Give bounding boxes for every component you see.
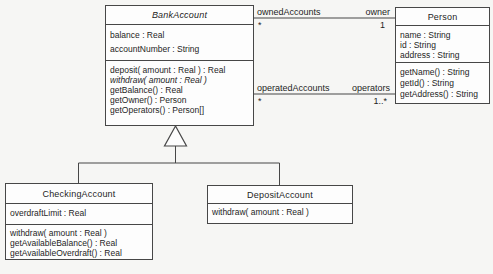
association-role-ownedaccounts: ownedAccounts — [257, 7, 321, 17]
class-bankaccount-attributes: balance : Real accountNumber : String — [106, 25, 253, 61]
association-mult-operators: 1..* — [355, 96, 387, 106]
class-person: Person name : String id : String address… — [395, 7, 490, 104]
association-role-operators: operators — [330, 83, 390, 93]
class-bankaccount: BankAccount balance : Real accountNumber… — [105, 5, 254, 126]
operation: withdraw( amount : Real ) — [10, 228, 148, 238]
class-checkingaccount-operations: withdraw( amount : Real ) getAvailableBa… — [6, 225, 152, 259]
operation: getAddress() : String — [400, 89, 485, 100]
attribute: overdraftLimit : Real — [10, 207, 148, 220]
class-depositaccount: DepositAccount withdraw( amount : Real ) — [207, 185, 353, 224]
class-depositaccount-operations: withdraw( amount : Real ) — [208, 204, 352, 223]
class-checkingaccount: CheckingAccount overdraftLimit : Real wi… — [5, 183, 153, 260]
operation: getAvailableBalance() : Real — [10, 238, 148, 248]
class-bankaccount-operations: deposit( amount : Real ) : Real withdraw… — [106, 61, 253, 125]
association-mult-owner: 1 — [360, 20, 385, 30]
operation: deposit( amount : Real ) : Real — [110, 65, 249, 75]
operation: getOwner() : Person — [110, 95, 249, 105]
attribute: address : String — [400, 50, 485, 60]
class-checkingaccount-attributes: overdraftLimit : Real — [6, 204, 152, 225]
association-role-operatedaccounts: operatedAccounts — [257, 83, 330, 93]
operation: getAvailableOverdraft() : Real — [10, 248, 148, 258]
attribute: id : String — [400, 40, 485, 50]
operation: getOperators() : Person[] — [110, 105, 249, 115]
class-checkingaccount-name: CheckingAccount — [6, 184, 152, 204]
association-role-owner: owner — [330, 7, 390, 17]
operation: getBalance() : Real — [110, 85, 249, 95]
class-person-attributes: name : String id : String address : Stri… — [396, 26, 489, 63]
operation: withdraw( amount : Real ) — [212, 206, 348, 219]
class-person-name: Person — [396, 8, 489, 26]
attribute: name : String — [400, 30, 485, 40]
association-mult-ownedaccounts: * — [258, 20, 262, 30]
operation: getId() : String — [400, 78, 485, 89]
operation: getName() : String — [400, 67, 485, 78]
class-depositaccount-name: DepositAccount — [208, 186, 352, 204]
uml-class-diagram: BankAccount balance : Real accountNumber… — [0, 0, 493, 274]
operation-abstract: withdraw( amount : Real ) — [110, 75, 249, 85]
attribute: accountNumber : String — [110, 42, 249, 56]
association-mult-operatedaccounts: * — [258, 96, 262, 106]
class-person-operations: getName() : String getId() : String getA… — [396, 63, 489, 103]
class-bankaccount-name: BankAccount — [106, 6, 253, 25]
attribute: balance : Real — [110, 28, 249, 42]
generalization-triangle-icon — [165, 126, 187, 146]
